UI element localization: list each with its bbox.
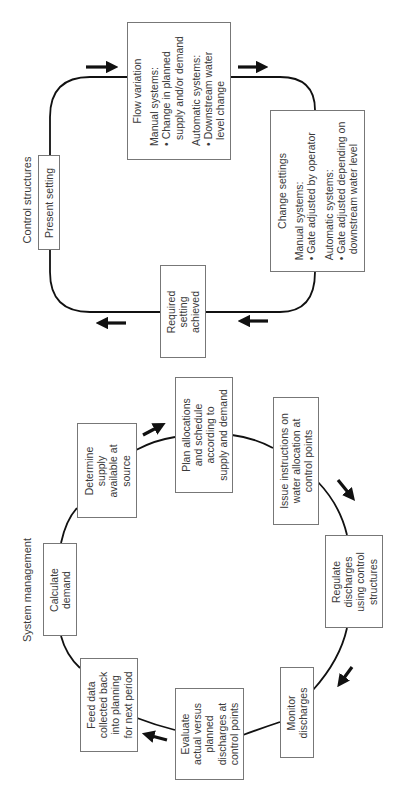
arrow-nw: [148, 735, 167, 740]
arrow-sw: [341, 667, 352, 682]
node-regulate-discharges: Regulate discharges using control struct…: [325, 535, 383, 628]
node-calculate-demand: Calculate demand: [43, 543, 77, 636]
node-issue-instructions: Issue instructions on water allocation a…: [273, 397, 319, 525]
node-determine-supply: Determine supply available at source: [77, 423, 137, 518]
node-flow-variation: Flow variation Manual systems: • Change …: [127, 22, 231, 160]
node-plan-allocations: Plan allocations and schedule according …: [175, 377, 233, 493]
arrow-ne: [143, 426, 160, 435]
node-present-setting: Present setting: [38, 155, 60, 250]
node-monitor-discharges: Monitor discharges: [280, 667, 314, 758]
node-change-settings: Change settings Manual systems: • Gate a…: [270, 110, 365, 272]
node-feed-data: Feed data collected back into planning f…: [80, 658, 138, 752]
arrow-se: [338, 480, 351, 496]
node-evaluate: Evaluate actual versus planned discharge…: [175, 688, 244, 780]
node-required-setting: Required setting achieved: [160, 265, 206, 358]
